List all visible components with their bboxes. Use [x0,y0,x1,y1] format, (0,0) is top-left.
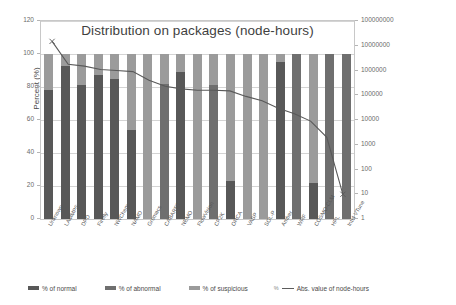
x-axis-label-slot: NWChem [110,222,119,274]
legend-line-swatch [282,288,294,289]
y-axis-right-tick-label: 10 [361,189,401,196]
legend-color-swatch [189,286,200,290]
y-axis-right-tick-label: 10000000 [361,41,401,48]
y-axis-left-tick-label: 60 [0,115,34,122]
chart-legend: % of normal% of abnormal% of suspicious%… [28,281,440,295]
y-axis-right-tick-mark [355,169,358,170]
legend-item[interactable]: %Abs. value of node-hours [274,285,369,292]
x-axis-label-slot: LAMMPS [60,222,69,274]
legend-color-swatch [28,286,39,290]
x-axis-label-slot: COSMO-CLM [310,222,319,274]
x-axis-label-slot: ORCA [226,222,235,274]
node-hours-line [41,21,354,219]
legend-label: % of suspicious [203,285,248,292]
y-axis-left-tick-label: 80 [0,82,34,89]
plot-area: Distribution on packages (node-hours) [40,20,355,220]
chart-container: Percent (%) Absolute value of node-hours… [0,0,456,305]
x-axis-label-slot: Firefly [93,222,102,274]
y-axis-left-tick-label: 120 [0,16,34,23]
x-axis-label-slot: Unknown [43,222,52,274]
legend-label: Abs. value of node-hours [297,285,369,292]
y-axis-right-tick-mark [355,119,358,120]
x-axis-label-slot: NEMO [176,222,185,274]
x-axis-label-slot: Amber [276,222,285,274]
y-axis-right-tick-mark [355,193,358,194]
legend-item[interactable]: % of suspicious [189,285,248,292]
legend-label: % of abnormal [119,285,161,292]
line-series-layer [41,21,354,219]
legend-item[interactable]: % of normal [28,285,77,292]
y-axis-left-tick-label: 20 [0,181,34,188]
y-axis-right-tick-label: 10000 [361,115,401,122]
y-axis-right-tick-mark [355,144,358,145]
y-axis-right-tick-label: 100 [361,165,401,172]
x-axis-label-slot: CABARET [160,222,169,274]
y-axis-left-tick-label: 0 [0,214,34,221]
y-axis-right-tick-label: 100000000 [361,16,401,23]
x-axis-label-slot: WRF [293,222,302,274]
y-axis-right-tick-mark [355,45,358,46]
y-axis-right-tick-label: 100000 [361,90,401,97]
y-axis-right-tick-label: 1000 [361,140,401,147]
legend-item[interactable]: % of abnormal [105,285,161,292]
y-axis-right-tick-mark [355,94,358,95]
x-axis-label-slot: NAMD [126,222,135,274]
y-axis-right-tick-label: 1000000 [361,66,401,73]
y-axis-right-tick-label: 1 [361,214,401,221]
x-axis-label-slot: FlowVision [193,222,202,274]
x-axis-label-slot: Intel VTune [343,222,352,274]
x-axis-label-slot: DPD [76,222,85,274]
y-axis-left-tick-label: 40 [0,148,34,155]
y-axis-right-tick-mark [355,20,358,21]
x-axis-label-slot: Gromacs [143,222,152,274]
legend-percent-mark: % [274,285,279,291]
x-axis-label-slot: HPL [326,222,335,274]
legend-color-swatch [105,286,116,290]
x-axis-label-slot: SOL-P [260,222,269,274]
x-axis-labels: UnknownLAMMPSDPDFireflyNWChemNAMDGromacs… [40,222,355,274]
x-axis-label-slot: CP2K [210,222,219,274]
x-axis-label-slot: VASP [243,222,252,274]
legend-label: % of normal [42,285,77,292]
y-axis-right-tick-mark [355,70,358,71]
y-axis-left-tick-label: 100 [0,49,34,56]
